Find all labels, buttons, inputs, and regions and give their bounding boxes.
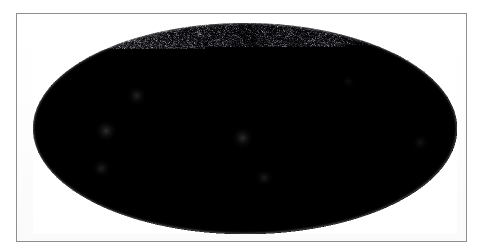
all-sky-map-canvas [33,23,457,234]
all-sky-map [33,23,457,234]
figure-root [0,0,484,250]
figure-frame [16,13,467,242]
